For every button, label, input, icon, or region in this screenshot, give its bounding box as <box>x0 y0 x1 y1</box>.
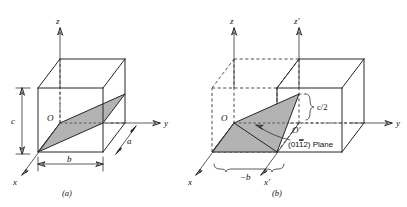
panel-b-caption: (b) <box>272 188 282 198</box>
x-axis-label-a: x <box>12 177 17 187</box>
y-axis-label-b: y <box>395 118 400 128</box>
plane-label-suffix: 2) Plane <box>303 140 333 149</box>
dim-b-label-a: b <box>67 154 72 164</box>
y-axis-label-a: y <box>163 118 168 128</box>
panel-a-caption: (a) <box>62 188 72 198</box>
dim-minus-b-label-b: −b <box>240 172 251 182</box>
x-axis-arrowhead-b <box>196 170 202 176</box>
dim-a-arrow-bottom-a <box>116 148 121 154</box>
cell-edge-right-depth <box>103 123 125 152</box>
cellR-edge-right-depth-b <box>342 123 364 152</box>
cellL-edge-top-left-depth-b <box>212 59 234 88</box>
z-axis-label-a: z <box>55 16 60 26</box>
dim-a-label-a: a <box>127 136 132 146</box>
origin-prime-label-b: O′ <box>292 125 301 135</box>
z-axis-label-b: z <box>229 16 234 26</box>
origin-label-a: O <box>47 113 54 123</box>
x-axis-label-b: x <box>187 177 192 187</box>
dim-c-half-label-b: c/2 <box>317 102 327 112</box>
svg-text:(0112) Plane: (0112) Plane <box>288 140 334 149</box>
panel-b: z z′ y x x′ c/2 −b <box>187 16 400 198</box>
dim-c-half-bracket-b <box>306 94 314 120</box>
panel-a: z y x c b <box>11 16 168 198</box>
figure-canvas: z y x c b <box>0 0 407 207</box>
origin-label-b: O <box>221 113 228 123</box>
dim-minus-b-bracket-b <box>214 164 284 172</box>
dim-c-label-a: c <box>11 116 15 126</box>
dim-a-arrow-top-a <box>131 126 136 132</box>
cell-edge-top-left-depth <box>38 59 60 88</box>
cellR-edge-top-right-depth-b <box>342 59 364 88</box>
x-prime-axis-label-b: x′ <box>263 177 271 187</box>
z-prime-axis-label-b: z′ <box>293 16 301 26</box>
x-prime-axis-arrowhead-b <box>261 170 267 176</box>
x-axis-line-a <box>22 123 60 175</box>
cellR-edge-top-left-depth-b <box>277 59 299 88</box>
cell-edge-top-right-depth <box>103 59 125 88</box>
x-axis-arrowhead-a <box>22 170 28 176</box>
plane-callout-label-b: (0112) Plane <box>288 140 334 150</box>
crystal-plane-figure: z y x c b <box>0 0 407 207</box>
